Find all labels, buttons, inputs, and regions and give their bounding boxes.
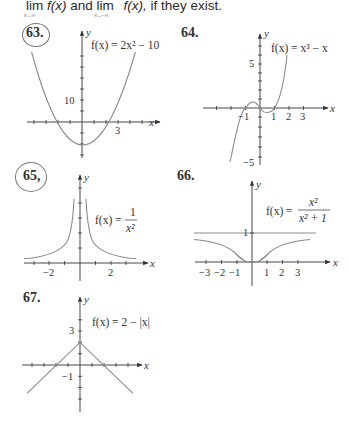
svg-text:f(x) =: f(x) = bbox=[95, 214, 122, 227]
graph-65: y x −2 2 f(x) = 1 x² bbox=[24, 171, 155, 281]
x-tick-label: −1 bbox=[238, 111, 249, 122]
x-axis-label: x bbox=[148, 116, 154, 128]
graphs-canvas: y x 10 3 f(x) = 2x² − 10 y x 5 −5 −1 1 2… bbox=[0, 0, 349, 421]
svg-text:f(x) =: f(x) = bbox=[266, 205, 293, 218]
graph-66: y x 1 −3 −2 −1 1 2 3 f(x) = x² x² + 1 bbox=[194, 178, 338, 286]
x-axis-label: x bbox=[329, 102, 335, 114]
x-tick-label: −3 bbox=[199, 267, 210, 278]
function-equation: f(x) = 2x² − 10 bbox=[91, 39, 159, 52]
y-tick-label: 1 bbox=[243, 227, 248, 238]
x-tick-label: 2 bbox=[286, 111, 291, 122]
x-tick-label: 1 bbox=[271, 111, 276, 122]
left-branch-curve bbox=[24, 199, 74, 259]
graph-64: y x 5 −5 −1 1 2 3 f(x) = x³ − x bbox=[203, 27, 335, 168]
x-tick-label: −1 bbox=[229, 267, 240, 278]
x-tick-label: 3 bbox=[295, 267, 300, 278]
x-tick-label: −2 bbox=[43, 267, 54, 278]
graph-67: y x 3 −1 f(x) = 2 − |x| bbox=[22, 293, 150, 412]
graph-63: y x 10 3 f(x) = 2x² − 10 bbox=[27, 26, 160, 158]
y-axis-label: y bbox=[83, 171, 89, 183]
y-tick-label: 10 bbox=[64, 95, 75, 106]
y-tick-label: −5 bbox=[243, 157, 254, 168]
svg-text:1: 1 bbox=[130, 206, 136, 218]
function-equation: f(x) = 2 − |x| bbox=[92, 316, 150, 329]
y-tick-label: −1 bbox=[62, 371, 73, 382]
y-axis-label: y bbox=[263, 27, 269, 39]
x-tick-label: 2 bbox=[108, 267, 113, 278]
svg-text:x²: x² bbox=[308, 196, 318, 208]
y-axis-label: y bbox=[83, 293, 89, 305]
x-tick-label: 3 bbox=[115, 125, 120, 136]
y-tick-label: 3 bbox=[69, 325, 74, 336]
y-axis-label: y bbox=[255, 178, 261, 190]
function-equation: f(x) = 1 x² bbox=[95, 206, 137, 234]
cubic-curve bbox=[230, 55, 287, 162]
x-axis-label: x bbox=[332, 256, 338, 268]
function-equation: f(x) = x² x² + 1 bbox=[266, 196, 330, 224]
y-axis-label: y bbox=[85, 26, 91, 38]
x-tick-label: 1 bbox=[264, 267, 269, 278]
x-tick-label: −2 bbox=[214, 267, 225, 278]
x-axis-label: x bbox=[143, 359, 149, 371]
x-tick-label: 2 bbox=[279, 267, 284, 278]
function-equation: f(x) = x³ − x bbox=[271, 42, 328, 55]
svg-text:x²: x² bbox=[125, 222, 135, 234]
y-tick-label: 5 bbox=[249, 58, 254, 69]
svg-text:x² + 1: x² + 1 bbox=[298, 212, 327, 224]
x-axis-label: x bbox=[149, 257, 155, 269]
x-tick-label: 3 bbox=[300, 111, 305, 122]
